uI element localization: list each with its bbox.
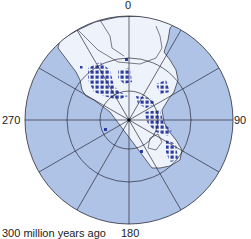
- map-caption: 300 million years ago: [2, 228, 106, 239]
- longitude-label-90: 90: [234, 115, 246, 126]
- longitude-label-0: 0: [125, 0, 131, 11]
- longitude-label-270: 270: [2, 115, 20, 126]
- pole-marker: [127, 118, 131, 122]
- longitude-label-180: 180: [121, 228, 139, 239]
- polar-map: [0, 0, 251, 239]
